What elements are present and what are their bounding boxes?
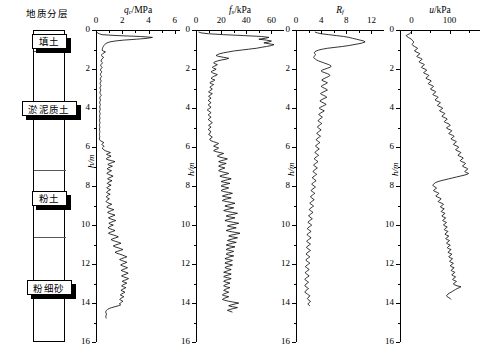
depth-tick-label: 16 [378,336,394,346]
depth-tick-major [92,342,96,343]
chart-1: qc/MPa02460246810121416h/m [96,0,180,349]
chart-3: Rf048120246810121416h/m [296,0,384,349]
x-tick-label: 20 [209,15,233,25]
plot-area: 0246810121416 [400,30,480,342]
label-box: 粉细砂 [27,280,72,295]
depth-tick-major [192,342,196,343]
x-tick-label: 100 [438,15,462,25]
geology-layer-divider [34,237,66,238]
plot-area: 0246810121416 [196,30,284,342]
depth-tick-label: 6 [174,141,190,151]
depth-tick-label: 2 [378,63,394,73]
depth-tick-label: 16 [274,336,290,346]
depth-tick-label: 4 [274,102,290,112]
depth-axis-title: h/m [390,163,400,177]
x-tick-label: 40 [234,15,258,25]
depth-tick-label: 12 [174,258,190,268]
cptu-figure: 地质分层 填土淤泥质土粉土粉细砂 qc/MPa02460246810121416… [0,0,483,349]
depth-tick-label: 2 [174,63,190,73]
depth-tick-label: 14 [174,297,190,307]
geology-layer-label: 填土 [32,34,67,49]
depth-tick-label: 8 [274,180,290,190]
label-box: 淤泥质土 [22,101,77,116]
depth-tick-label: 6 [378,141,394,151]
depth-tick-label: 0 [378,24,394,34]
plot-area: 0246810121416 [296,30,384,342]
depth-tick-label: 4 [174,102,190,112]
depth-tick-label: 10 [378,219,394,229]
depth-tick-major [292,342,296,343]
chart-4: u/kPa01000246810121416h/m [400,0,480,349]
chart-title: u/kPa [400,5,480,15]
chart-2: fs/kPa02040600246810121416h/m [196,0,284,349]
x-tick-label: 4 [137,15,161,25]
depth-axis-title: h/m [186,163,196,177]
depth-tick-label: 16 [174,336,190,346]
data-curve [96,30,180,342]
chart-title: Rf [296,5,384,15]
data-curve [196,30,284,342]
depth-tick-label: 14 [378,297,394,307]
chart-title: fs/kPa [196,5,284,15]
depth-tick-major [396,342,400,343]
depth-tick-label: 0 [274,24,290,34]
depth-tick-label: 10 [174,219,190,229]
depth-tick-label: 4 [378,102,394,112]
depth-tick-label: 16 [74,336,90,346]
label-box: 粉土 [32,191,67,206]
x-tick-label: 2 [110,15,134,25]
depth-tick-label: 0 [174,24,190,34]
depth-tick-label: 10 [74,219,90,229]
depth-tick-label: 14 [274,297,290,307]
depth-tick-label: 6 [74,141,90,151]
geology-column-title: 地质分层 [14,6,80,20]
depth-tick-label: 12 [274,258,290,268]
depth-tick-label: 10 [274,219,290,229]
chart-title: qc/MPa [96,5,180,15]
depth-tick-label: 8 [378,180,394,190]
x-tick-label: 4 [309,15,333,25]
x-tick-label: 0 [399,15,423,25]
label-box: 填土 [32,34,67,49]
depth-axis-title: h/m [86,155,96,169]
depth-tick-label: 8 [174,180,190,190]
x-tick-label: 8 [334,15,358,25]
geology-layer-label: 淤泥质土 [22,101,77,116]
depth-tick-label: 0 [74,24,90,34]
depth-tick-label: 2 [74,63,90,73]
depth-tick-label: 2 [274,63,290,73]
geology-layer-label: 粉细砂 [27,280,72,295]
depth-tick-label: 6 [274,141,290,151]
geology-layer-label: 粉土 [32,191,67,206]
data-curve [296,30,384,342]
data-curve [400,30,480,342]
depth-tick-label: 12 [378,258,394,268]
depth-tick-label: 4 [74,102,90,112]
geology-layer-divider [34,170,66,171]
depth-tick-label: 14 [74,297,90,307]
depth-tick-label: 12 [74,258,90,268]
plot-area: 0246810121416 [96,30,180,342]
depth-tick-label: 8 [74,180,90,190]
depth-axis-title: h/m [286,163,296,177]
